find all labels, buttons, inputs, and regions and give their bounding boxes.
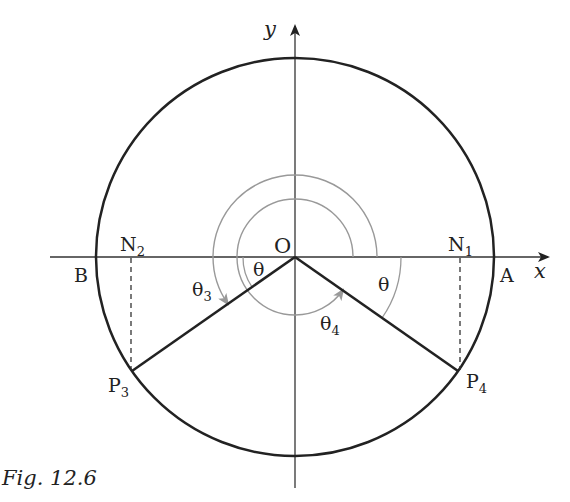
point-b-label: B (74, 264, 88, 286)
origin-label: O (274, 234, 291, 258)
point-p4-label: P4 (466, 370, 487, 396)
y-axis-label: y (263, 17, 277, 41)
point-n2-label: N2 (120, 233, 145, 259)
unit-circle-diagram: y x O A B N2 N1 P3 P4 θ θ θ3 θ4 (0, 0, 570, 502)
figure-caption: Fig. 12.6 (2, 466, 97, 490)
theta-right-label: θ (378, 273, 389, 295)
radius-op3 (132, 257, 295, 371)
point-p3-label: P3 (108, 374, 129, 400)
point-n1-label: N1 (448, 233, 473, 259)
point-a-label: A (499, 264, 514, 286)
theta-left-label: θ (253, 258, 264, 280)
x-axis-label: x (534, 259, 546, 283)
theta-left-arc (243, 257, 252, 287)
theta3-label: θ3 (192, 278, 212, 304)
theta4-label: θ4 (320, 312, 340, 338)
